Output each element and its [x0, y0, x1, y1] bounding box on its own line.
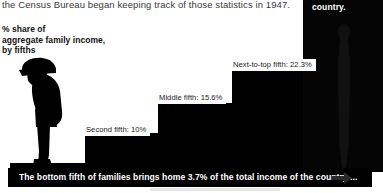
data-label-middle-fifth: Middle fifth: 15.6%	[156, 92, 226, 104]
top-fifth-label: country.	[312, 2, 346, 12]
bottom-banner: The bottom fifth of families brings home…	[8, 168, 372, 187]
data-label-next-to-top-fifth: Next-to-top fifth: 22.3%	[230, 59, 316, 71]
axis-caption-line-1: % share of	[2, 24, 105, 35]
standing-person-silhouette	[331, 22, 357, 170]
canvas-baseline-tint	[150, 188, 280, 191]
bottom-banner-text: The bottom fifth of families brings home…	[19, 172, 357, 182]
axis-caption: % share of aggregate family income, by f…	[2, 24, 105, 56]
bar-second-fifth	[85, 133, 159, 172]
axis-caption-line-3: by fifths	[2, 45, 105, 56]
bar-middle-fifth	[158, 103, 232, 172]
hunched-man-in-cap-silhouette	[16, 55, 78, 167]
bar-next-to-top-fifth	[232, 71, 304, 172]
axis-caption-line-2: aggregate family income,	[2, 35, 105, 46]
top-fifth-panel: country.	[303, 0, 383, 170]
infographic-canvas: the Census Bureau began keeping track of…	[0, 0, 383, 193]
data-label-second-fifth: Second fifth: 10%	[83, 124, 150, 136]
